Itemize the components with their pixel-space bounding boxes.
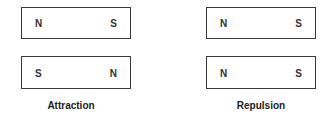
- pole-label: N: [220, 67, 227, 78]
- magnet-attraction-bottom: S N: [21, 56, 131, 89]
- pole-label: N: [110, 67, 117, 78]
- magnet-repulsion-top: N S: [206, 7, 316, 39]
- pole-label: S: [110, 18, 117, 29]
- pole-label: S: [295, 18, 302, 29]
- pole-label: S: [295, 67, 302, 78]
- pole-label: N: [35, 18, 42, 29]
- magnet-repulsion-bottom: N S: [206, 56, 316, 89]
- caption-repulsion: Repulsion: [206, 100, 316, 111]
- pole-label: S: [35, 67, 42, 78]
- caption-attraction: Attraction: [16, 100, 126, 111]
- magnet-attraction-top: N S: [21, 7, 131, 39]
- pole-label: N: [220, 18, 227, 29]
